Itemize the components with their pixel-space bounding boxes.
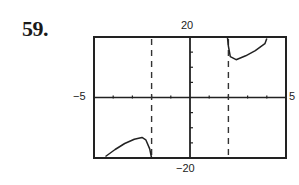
axes (94, 37, 286, 158)
curve-branch (106, 137, 152, 158)
graph-plot (0, 0, 299, 185)
curve-branch (227, 37, 266, 60)
